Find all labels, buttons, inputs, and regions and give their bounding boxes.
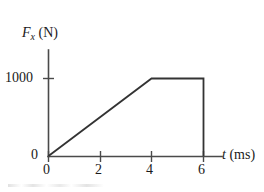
y-axis-symbol: F bbox=[22, 25, 31, 40]
x-axis-symbol: t bbox=[222, 147, 226, 162]
x-axis-title: t (ms) bbox=[222, 148, 255, 162]
x-tick-label-0: 0 bbox=[43, 163, 50, 177]
y-axis-title: Fx (N) bbox=[22, 26, 58, 42]
y-tick-label-1000: 1000 bbox=[5, 71, 33, 85]
force-curve bbox=[49, 79, 204, 157]
x-tick-label-6: 6 bbox=[198, 163, 205, 177]
force-time-graph-figure: Fx (N) t (ms) 1000 0 0 2 4 6 bbox=[0, 0, 264, 192]
y-axis-unit: (N) bbox=[39, 25, 58, 40]
x-tick-label-2: 2 bbox=[95, 163, 102, 177]
x-axis-unit: (ms) bbox=[229, 147, 255, 162]
y-axis-subscript: x bbox=[31, 31, 35, 42]
cropped-caption-artifact bbox=[8, 184, 104, 187]
x-tick-label-4: 4 bbox=[146, 163, 153, 177]
y-tick-label-0: 0 bbox=[31, 148, 38, 162]
